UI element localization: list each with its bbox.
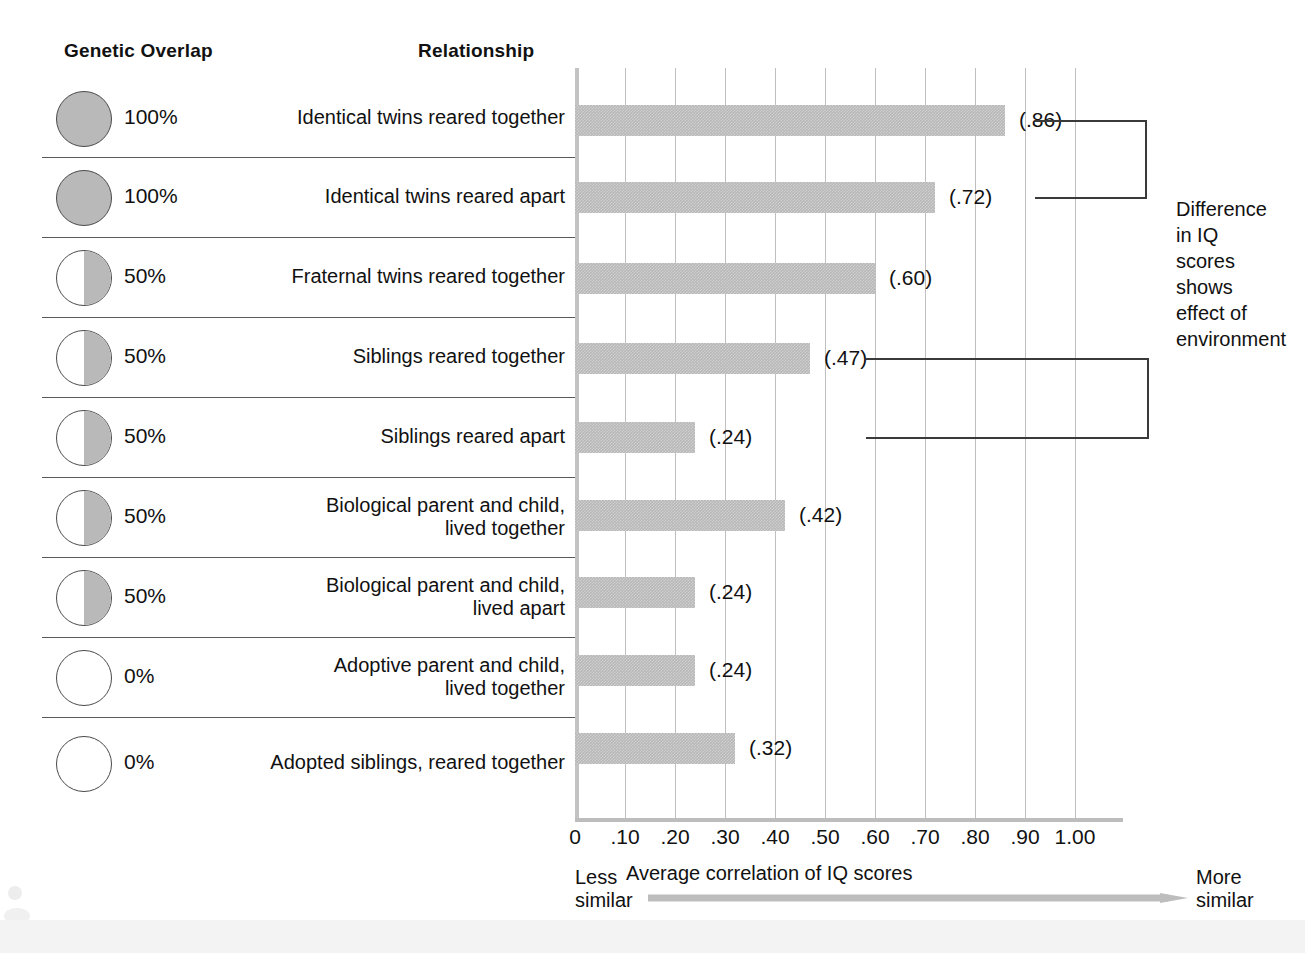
circle-half-fill bbox=[84, 251, 111, 305]
gridline bbox=[1025, 68, 1026, 820]
relationship-label: Fraternal twins reared together bbox=[185, 265, 565, 288]
relationship-label: Siblings reared together bbox=[185, 345, 565, 368]
genetic-overlap-value: 0% bbox=[124, 750, 154, 774]
relationship-label: Identical twins reared together bbox=[185, 106, 565, 129]
genetic-overlap-circle-icon bbox=[56, 410, 112, 466]
x-tick-label: 1.00 bbox=[1045, 825, 1105, 849]
table-row: 100%Identical twins reared apart bbox=[42, 158, 575, 238]
direction-arrow-icon bbox=[648, 893, 1188, 903]
bar bbox=[575, 263, 875, 294]
page-bottom-band bbox=[0, 920, 1305, 953]
genetic-overlap-value: 50% bbox=[124, 584, 166, 608]
bar-value-label: (.42) bbox=[799, 503, 842, 527]
x-axis-title: Average correlation of IQ scores bbox=[626, 862, 912, 885]
column-header-relationship: Relationship bbox=[418, 40, 534, 62]
genetic-overlap-value: 50% bbox=[124, 424, 166, 448]
less-similar-label: Lesssimilar bbox=[575, 866, 633, 912]
genetic-overlap-circle-icon bbox=[56, 650, 112, 706]
genetic-overlap-circle-icon bbox=[56, 91, 112, 147]
bracket-siblings bbox=[866, 358, 1151, 439]
circle-half-fill bbox=[84, 331, 111, 385]
genetic-overlap-value: 100% bbox=[124, 184, 178, 208]
bar-value-label: (.60) bbox=[889, 266, 932, 290]
page-smudge bbox=[8, 886, 22, 900]
circle-half-fill bbox=[84, 571, 111, 625]
bar bbox=[575, 577, 695, 608]
genetic-overlap-circle-icon bbox=[56, 250, 112, 306]
table-row: 50%Siblings reared apart bbox=[42, 398, 575, 478]
gridline bbox=[875, 68, 876, 820]
genetic-overlap-circle-icon bbox=[56, 490, 112, 546]
figure-root: Genetic Overlap Relationship 100%Identic… bbox=[0, 0, 1305, 953]
genetic-overlap-circle-icon bbox=[56, 170, 112, 226]
gridline bbox=[925, 68, 926, 820]
genetic-overlap-value: 50% bbox=[124, 344, 166, 368]
bar-value-label: (.72) bbox=[949, 185, 992, 209]
plot-area: (.86)(.72)(.60)(.47)(.24)(.42)(.24)(.24)… bbox=[575, 68, 1080, 820]
bar bbox=[575, 500, 785, 531]
gridline bbox=[975, 68, 976, 820]
table-row: 0%Adopted siblings, reared together bbox=[42, 718, 575, 810]
genetic-overlap-value: 50% bbox=[124, 264, 166, 288]
relationship-label: Identical twins reared apart bbox=[185, 185, 565, 208]
table-row: 50%Biological parent and child,lived apa… bbox=[42, 558, 575, 638]
relationship-label: Biological parent and child,lived togeth… bbox=[185, 494, 565, 540]
bar-value-label: (.24) bbox=[709, 580, 752, 604]
bar bbox=[575, 343, 810, 374]
relationship-label: Siblings reared apart bbox=[185, 425, 565, 448]
genetic-overlap-value: 100% bbox=[124, 105, 178, 129]
genetic-overlap-circle-icon bbox=[56, 570, 112, 626]
relationship-label: Adopted siblings, reared together bbox=[185, 751, 565, 774]
column-header-genetic-overlap: Genetic Overlap bbox=[64, 40, 213, 62]
bar bbox=[575, 182, 935, 213]
relationship-label: Biological parent and child,lived apart bbox=[185, 574, 565, 620]
x-axis-line bbox=[575, 818, 1123, 822]
bar bbox=[575, 422, 695, 453]
bar bbox=[575, 105, 1005, 136]
environment-effect-annotation: Differencein IQscoresshowseffect ofenvir… bbox=[1176, 196, 1296, 352]
bar-value-label: (.24) bbox=[709, 425, 752, 449]
circle-half-fill bbox=[84, 411, 111, 465]
genetic-overlap-value: 0% bbox=[124, 664, 154, 688]
relationship-label: Adoptive parent and child,lived together bbox=[185, 654, 565, 700]
table-row: 50%Biological parent and child,lived tog… bbox=[42, 478, 575, 558]
bar-value-label: (.47) bbox=[824, 346, 867, 370]
genetic-overlap-circle-icon bbox=[56, 330, 112, 386]
genetic-overlap-value: 50% bbox=[124, 504, 166, 528]
circle-half-fill bbox=[84, 491, 111, 545]
genetic-overlap-circle-icon bbox=[56, 736, 112, 792]
bar-value-label: (.24) bbox=[709, 658, 752, 682]
bar bbox=[575, 733, 735, 764]
table-row: 50%Fraternal twins reared together bbox=[42, 238, 575, 318]
bar bbox=[575, 655, 695, 686]
table-row: 100%Identical twins reared together bbox=[42, 80, 575, 158]
table-row: 0%Adoptive parent and child,lived togeth… bbox=[42, 638, 575, 718]
table-row: 50%Siblings reared together bbox=[42, 318, 575, 398]
bracket-identical-twins bbox=[1035, 120, 1150, 199]
more-similar-label: Moresimilar bbox=[1196, 866, 1254, 912]
gridline bbox=[775, 68, 776, 820]
bar-value-label: (.32) bbox=[749, 736, 792, 760]
gridline bbox=[825, 68, 826, 820]
